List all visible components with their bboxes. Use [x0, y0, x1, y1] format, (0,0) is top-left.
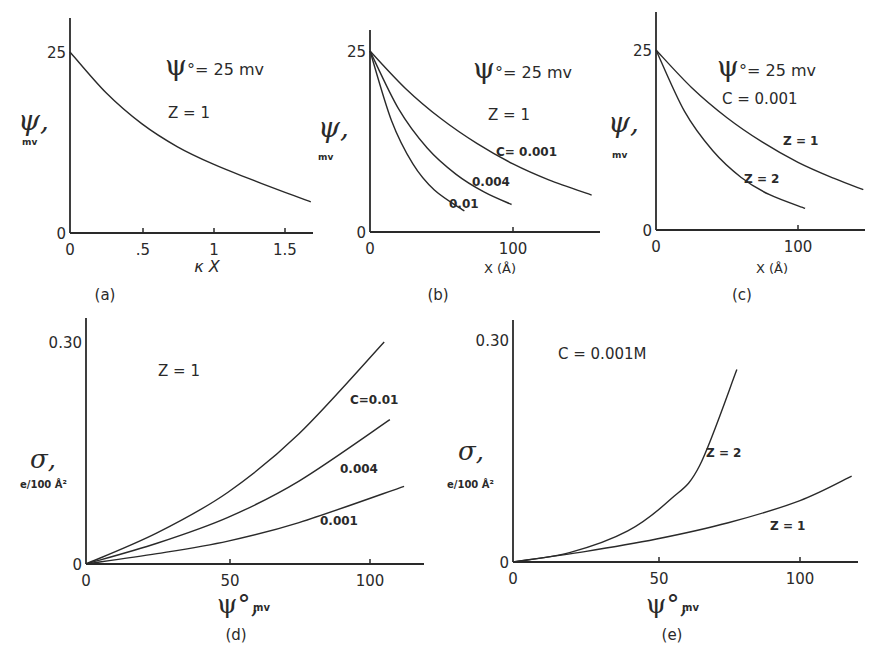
chart-panel-a: 0.511.5025ψ,mvκ X(a)ψ°= 25 mvZ = 1	[18, 18, 313, 304]
x-tick-label: 50	[649, 570, 668, 588]
x-tick-label: 0	[65, 241, 75, 259]
x-tick-label: 0	[81, 572, 91, 590]
series-label: 0.004	[472, 175, 510, 189]
y-axis-label: ψ,	[18, 104, 49, 137]
chart-panel-d: 05010000.30σ,e/100 Å²ψ°,mv(d)Z = 1C=0.01…	[20, 318, 424, 644]
series-label: 0.001	[320, 514, 358, 528]
series-label: Z = 2	[706, 446, 741, 460]
series-label: 0.01	[449, 197, 479, 211]
annotation-surface-potential: ψ°= 25 mv	[717, 50, 816, 83]
y-axis-label: ψ,	[318, 111, 349, 144]
y-axis-unit: mv	[22, 137, 37, 147]
series-label: 0.004	[340, 462, 378, 476]
y-tick-label: 25	[347, 43, 366, 61]
annotation-surface-potential: ψ°= 25 mv	[165, 49, 264, 82]
chart-panel-e: 05010000.30σ,e/100 Å²ψ°,mv(e)C = 0.001MZ…	[447, 320, 858, 644]
y-axis-unit: e/100 Å²	[20, 478, 67, 490]
series-label: Z = 1	[783, 134, 818, 148]
panel-caption: (b)	[427, 286, 448, 304]
y-axis-unit: mv	[318, 152, 333, 162]
series-line-0-004	[86, 420, 390, 564]
panel-caption: (e)	[662, 626, 683, 644]
x-tick-label: 50	[220, 572, 239, 590]
figure-canvas: 0.511.5025ψ,mvκ X(a)ψ°= 25 mvZ = 1010002…	[0, 0, 873, 659]
annotation-parameter: C = 0.001	[722, 90, 798, 108]
y-axis-unit: e/100 Å²	[447, 478, 494, 490]
annotation-parameter: C = 0.001M	[558, 345, 646, 363]
y-axis-label: σ,	[30, 444, 56, 474]
series-label: C=0.01	[350, 393, 398, 407]
y-tick-label: 0.30	[476, 332, 509, 350]
x-tick-label: 0	[365, 240, 375, 258]
annotation-parameter: Z = 1	[158, 362, 200, 380]
y-axis-unit: mv	[612, 150, 627, 160]
x-axis-unit: mv	[253, 602, 270, 613]
annotation-parameter: Z = 1	[488, 106, 530, 124]
x-tick-label: 100	[784, 238, 813, 256]
y-tick-label: 25	[47, 44, 66, 62]
x-tick-label: 1.5	[273, 241, 297, 259]
annotation-surface-potential: ψ°= 25 mv	[473, 52, 572, 85]
x-tick-label: 100	[499, 240, 528, 258]
y-axis-label: ψ,	[608, 106, 639, 139]
panel-caption: (c)	[732, 286, 752, 304]
x-tick-label: 100	[786, 570, 815, 588]
series-line-c-0-01	[86, 342, 384, 564]
x-tick-label: 0	[651, 238, 661, 256]
chart-panel-c: 0100025ψ,mvX (Å)(c)ψ°= 25 mvC = 0.001Z =…	[608, 12, 865, 304]
y-tick-label: 0	[72, 556, 82, 574]
series-label: Z = 1	[770, 519, 805, 533]
chart-panel-b: 0100025ψ,mvX (Å)(b)ψ°= 25 mvZ = 1C= 0.00…	[318, 30, 600, 304]
series-label: Z = 2	[744, 172, 779, 186]
series-line-z-2	[513, 370, 737, 562]
x-axis-label: X (Å)	[484, 261, 516, 276]
y-axis-label: σ,	[458, 436, 484, 466]
series-label: C= 0.001	[496, 145, 557, 159]
x-tick-label: .5	[136, 241, 150, 259]
annotation-parameter: Z = 1	[168, 104, 210, 122]
x-tick-label: 100	[356, 572, 385, 590]
y-tick-label: 25	[633, 42, 652, 60]
y-tick-label: 0	[356, 224, 366, 242]
x-tick-label: 0	[508, 570, 518, 588]
series-line-0-01	[370, 51, 464, 211]
y-tick-label: 0.30	[49, 334, 82, 352]
y-tick-label: 0	[499, 554, 509, 572]
panel-caption: (d)	[225, 626, 246, 644]
panel-caption: (a)	[95, 286, 116, 304]
x-axis-label: κ X	[194, 257, 221, 276]
y-tick-label: 0	[642, 222, 652, 240]
y-tick-label: 0	[56, 225, 66, 243]
x-axis-label: X (Å)	[756, 261, 788, 276]
x-axis-unit: mv	[682, 602, 699, 613]
